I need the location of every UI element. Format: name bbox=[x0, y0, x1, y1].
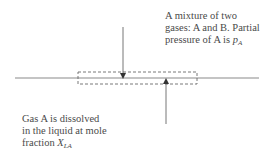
liquid-label-line2: in the liquid at mole bbox=[22, 125, 107, 137]
diagram-canvas: A mixture of two gases: A and B. Partial… bbox=[0, 0, 275, 156]
liquid-label-line3-text: fraction bbox=[22, 137, 57, 148]
liquid-label-line3: fraction XLA bbox=[22, 137, 107, 152]
partial-pressure-subscript: A bbox=[238, 39, 242, 47]
mole-fraction-subscript: LA bbox=[64, 142, 72, 150]
dissolved-gas-label: Gas A is dissolved in the liquid at mole… bbox=[22, 113, 107, 152]
gas-label-line1: A mixture of two bbox=[165, 10, 260, 22]
liquid-label-line1: Gas A is dissolved bbox=[22, 113, 107, 125]
gas-label-line3: pressure of A is pA bbox=[165, 34, 260, 49]
gas-label-line2: gases: A and B. Partial bbox=[165, 22, 260, 34]
gas-mixture-label: A mixture of two gases: A and B. Partial… bbox=[165, 10, 260, 49]
gas-label-line3-text: pressure of A is bbox=[165, 34, 233, 45]
